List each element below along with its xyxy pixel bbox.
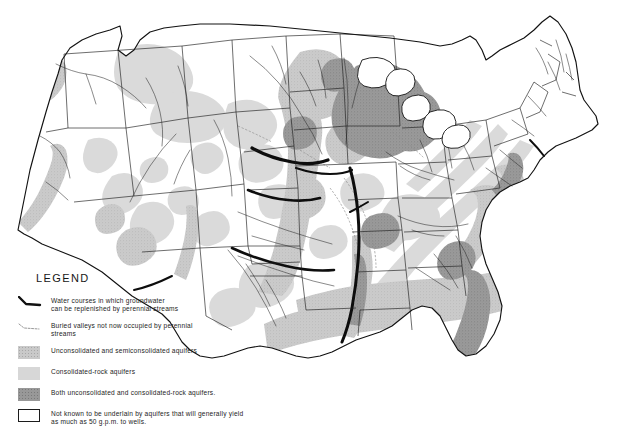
legend-title: LEGEND [36, 272, 318, 284]
legend-entry-both: Both unconsolidated and consolidated-roc… [18, 388, 318, 402]
legend-entry-unconsolidated-label: Unconsolidated and semiconsolidated aqui… [51, 346, 197, 355]
buried-valley-line-icon [18, 321, 42, 334]
both-aquifer-types-swatch-icon [18, 388, 42, 401]
legend-entry-water-course: Water courses in which groundwater can b… [18, 296, 318, 314]
consolidated-rock-aquifer-swatch-icon [18, 367, 42, 380]
no-known-aquifer-swatch-icon [18, 409, 42, 422]
legend-entry-consolidated: Consolidated-rock aquifers [18, 367, 318, 381]
legend-entry-none-label: Not known to be underlain by aquifers th… [51, 409, 243, 427]
legend-entry-water-course-label: Water courses in which groundwater can b… [51, 296, 178, 314]
legend-entry-buried-valley: Buried valleys not now occupied by peren… [18, 321, 318, 339]
legend-entry-unconsolidated: Unconsolidated and semiconsolidated aqui… [18, 346, 318, 360]
legend-entry-consolidated-label: Consolidated-rock aquifers [51, 367, 135, 376]
water-course-line-icon [18, 296, 42, 309]
groundwater-aquifer-map: LEGEND Water courses in which groundwate… [0, 0, 618, 429]
legend-entry-both-label: Both unconsolidated and consolidated-roc… [51, 388, 215, 397]
legend-entry-none: Not known to be underlain by aquifers th… [18, 409, 318, 427]
map-legend: LEGEND Water courses in which groundwate… [18, 272, 318, 429]
legend-entry-buried-valley-label: Buried valleys not now occupied by peren… [51, 321, 193, 339]
unconsolidated-aquifer-swatch-icon [18, 346, 42, 359]
